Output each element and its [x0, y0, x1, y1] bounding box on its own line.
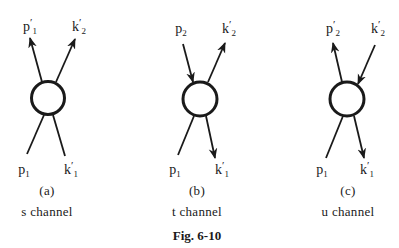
panel-b-channel-name: t channel — [172, 205, 222, 218]
panel-c-channel-name: u channel — [322, 205, 375, 218]
label-subscript: 1 — [25, 169, 30, 179]
panel-b-diagram — [178, 43, 225, 158]
label-base: p — [18, 162, 25, 177]
label-subscript: 2 — [231, 28, 236, 38]
label-k2-prime: k′2 — [222, 22, 236, 38]
label-base: k — [371, 21, 378, 36]
label-subscript: 2 — [81, 26, 86, 36]
label-subscript: 1 — [323, 169, 328, 179]
label-base: k — [222, 21, 229, 36]
label-k1-prime: k′1 — [360, 163, 374, 179]
figure-caption: Fig. 6-10 — [173, 229, 221, 242]
label-base: p — [175, 21, 182, 36]
outgoing-arrow-icon — [354, 116, 364, 158]
label-subscript: 2 — [335, 28, 340, 38]
label-subscript: 1 — [224, 169, 229, 179]
label-p2-prime: p′2 — [326, 22, 340, 38]
panel-c-diagram — [326, 43, 375, 158]
label-subscript: 1 — [176, 169, 181, 179]
incoming-arrow-icon — [358, 45, 375, 84]
label-p2: p2 — [175, 22, 187, 38]
label-base: k — [64, 162, 71, 177]
label-k1-prime: k′1 — [215, 163, 229, 179]
label-base: p — [326, 21, 333, 36]
outgoing-arrow-icon — [206, 116, 215, 158]
label-base: p — [316, 162, 323, 177]
label-k2-prime: k′2 — [72, 20, 86, 36]
incoming-arrow-icon — [188, 121, 192, 131]
label-p1: p1 — [316, 163, 328, 179]
outgoing-arrow-icon — [56, 39, 75, 82]
incoming-line — [27, 115, 44, 154]
incoming-arrow-icon — [183, 44, 193, 82]
label-subscript: 1 — [32, 26, 37, 36]
label-base: k — [360, 162, 367, 177]
panel-a-diagram — [27, 38, 75, 156]
label-base: p — [23, 19, 30, 34]
outgoing-arrow-icon — [208, 43, 225, 82]
panel-b-sublabel: (b) — [189, 184, 205, 197]
outgoing-arrow-icon — [333, 43, 342, 82]
vertex-blob-icon — [183, 82, 217, 116]
incoming-line — [53, 115, 65, 156]
label-p1: p1 — [18, 163, 30, 179]
vertex-blob-icon — [330, 82, 364, 116]
label-k1-prime: k′1 — [64, 163, 78, 179]
label-p1: p1 — [169, 163, 181, 179]
label-subscript: 2 — [380, 28, 385, 38]
label-subscript: 1 — [73, 169, 78, 179]
vertex-blob-icon — [32, 82, 65, 115]
incoming-arrow-icon — [37, 120, 42, 131]
incoming-arrow-icon — [337, 121, 341, 132]
label-subscript: 1 — [369, 169, 374, 179]
label-base: p — [169, 162, 176, 177]
panel-a-sublabel: (a) — [39, 184, 54, 197]
label-p1-prime: p′1 — [23, 20, 37, 36]
label-base: k — [215, 162, 222, 177]
incoming-line — [326, 116, 343, 158]
panel-a-channel-name: s channel — [21, 205, 72, 218]
incoming-line — [178, 116, 194, 155]
label-base: k — [72, 19, 79, 34]
panel-c-sublabel: (c) — [340, 184, 355, 197]
label-subscript: 2 — [182, 28, 187, 38]
label-k2-prime: k′2 — [371, 22, 385, 38]
outgoing-arrow-icon — [30, 38, 42, 82]
